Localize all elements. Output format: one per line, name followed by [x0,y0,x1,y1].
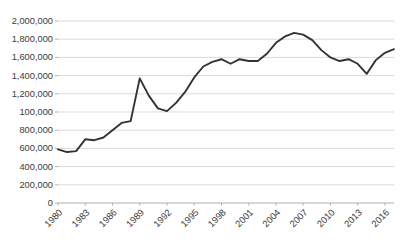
chart-canvas: 0200,000400,000600,000800,000100,0001,20… [0,0,410,249]
y-tick-label: 0 [48,198,53,208]
y-tick-label: 200,000 [19,180,53,190]
y-tick-label: 800,000 [19,125,53,135]
y-tick-label: 400,000 [19,162,53,172]
y-tick-label: 2,000,000 [12,16,53,26]
y-tick-label: 1,800,000 [12,34,53,44]
y-tick-label: 1,200,000 [12,89,53,99]
y-tick-label: 600,000 [19,143,53,153]
y-tick-label: 1,600,000 [12,52,53,62]
y-tick-label: 100,000 [19,107,53,117]
y-tick-label: 1,400,000 [12,71,53,81]
line-chart: 0200,000400,000600,000800,000100,0001,20… [0,0,410,249]
